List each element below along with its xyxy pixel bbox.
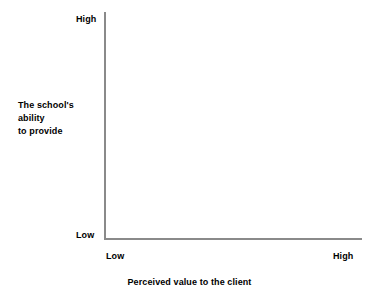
chart-canvas: High Low Low High The school's ability t… [0,0,379,297]
y-axis-tick-low: Low [76,230,94,241]
y-axis-title-line-2: ability [18,112,74,125]
y-axis-title-line-1: The school's [18,99,74,112]
x-axis-tick-high: High [333,251,353,262]
x-axis-title: Perceived value to the client [0,277,379,288]
y-axis-tick-high: High [76,14,96,25]
y-axis-title-line-3: to provide [18,125,74,138]
plot-area [106,12,362,238]
x-axis-tick-low: Low [106,251,124,262]
x-axis-line [104,238,362,240]
y-axis-title: The school's ability to provide [18,99,74,138]
